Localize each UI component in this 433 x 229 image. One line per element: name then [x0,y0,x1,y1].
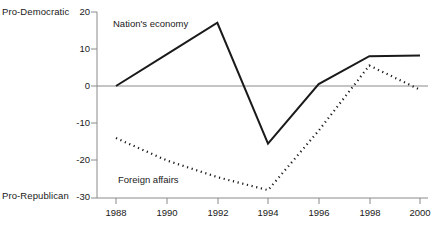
x-tick-marks [116,198,420,204]
line-chart: Pro-Democratic Pro-Republican 20 10 0 -1… [0,0,433,229]
series-line-foreign-affairs [116,66,420,191]
axes-group [97,12,428,198]
chart-canvas [0,0,433,229]
y-tick-marks [91,12,97,198]
series-line-nations-economy [116,23,420,144]
